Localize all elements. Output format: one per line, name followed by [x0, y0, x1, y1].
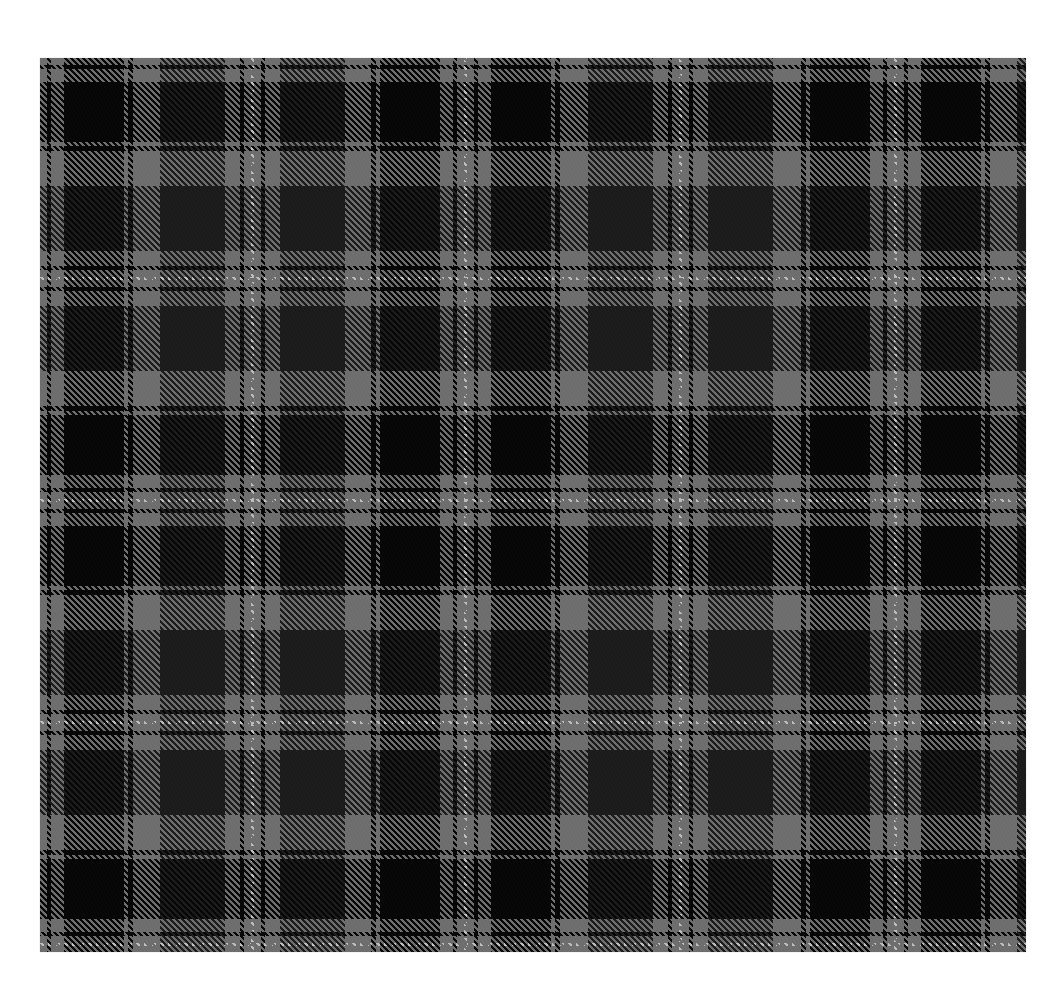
tartan-swatch: Grey and black tartan plaid fabric swatc…	[40, 58, 1026, 952]
image-description: Grey and black tartan plaid fabric swatc…	[40, 952, 41, 953]
tartan-fabric-image	[40, 58, 1026, 952]
